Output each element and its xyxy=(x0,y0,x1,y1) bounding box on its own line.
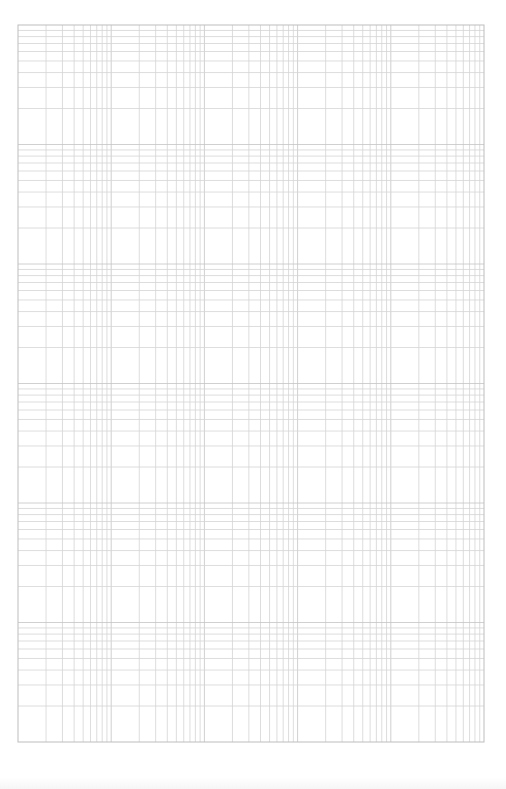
log-log-grid xyxy=(0,0,506,789)
page-bottom-shadow xyxy=(0,777,506,789)
horizontal-grid-lines xyxy=(18,30,484,706)
